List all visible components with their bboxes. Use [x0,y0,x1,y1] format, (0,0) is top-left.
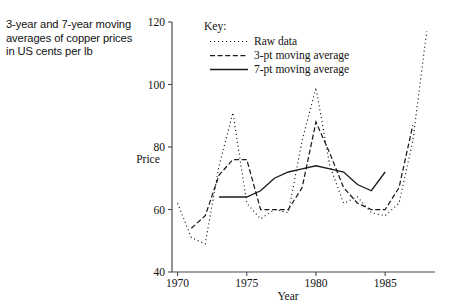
y-tick-label: 80 [154,141,166,153]
x-tick-label: 1975 [235,277,258,289]
chart-legend: Key:Raw data3-pt moving average7-pt movi… [204,20,349,76]
y-tick-label: 100 [148,79,166,91]
legend-label: Raw data [254,35,297,47]
y-axis-title: Price [136,153,160,165]
series-line [191,122,412,228]
y-tick-label: 120 [148,16,166,28]
x-axis-title: Year [277,290,298,302]
chart-figure: 3-year and 7-year moving averages of cop… [0,0,452,306]
legend-label: 7-pt moving average [254,63,349,76]
x-tick-label: 1980 [304,277,327,289]
chart-plot: 4060801001201970197519801985PriceYear Ke… [0,0,452,306]
y-tick-label: 60 [154,204,166,216]
legend-title: Key: [204,20,226,33]
y-tick-label: 40 [154,266,166,278]
legend-label: 3-pt moving average [254,49,349,62]
x-tick-label: 1985 [374,277,397,289]
x-tick-label: 1970 [166,277,189,289]
